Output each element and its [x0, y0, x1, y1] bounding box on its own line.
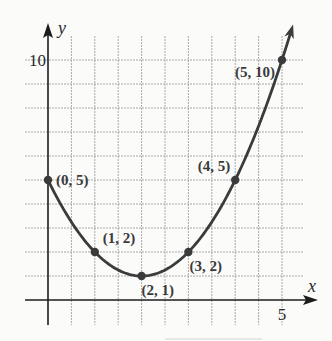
point-label: (5, 10): [235, 64, 275, 81]
data-point: [184, 248, 192, 256]
data-point: [44, 176, 52, 184]
point-label: (0, 5): [56, 172, 89, 189]
point-label: (2, 1): [142, 282, 175, 299]
y-tick-label: 10: [29, 51, 46, 70]
parabola-chart: x y 510 (0, 5)(1, 2)(2, 1)(3, 2)(4, 5)(5…: [0, 0, 332, 341]
data-point: [91, 248, 99, 256]
point-label: (4, 5): [198, 158, 231, 175]
point-label: (3, 2): [189, 258, 222, 275]
data-point: [137, 272, 145, 280]
y-axis-label: y: [56, 18, 66, 38]
x-tick-label: 5: [278, 305, 287, 324]
data-point: [231, 176, 239, 184]
data-point: [278, 56, 286, 64]
point-label: (1, 2): [103, 230, 136, 247]
x-axis-label: x: [307, 276, 316, 296]
